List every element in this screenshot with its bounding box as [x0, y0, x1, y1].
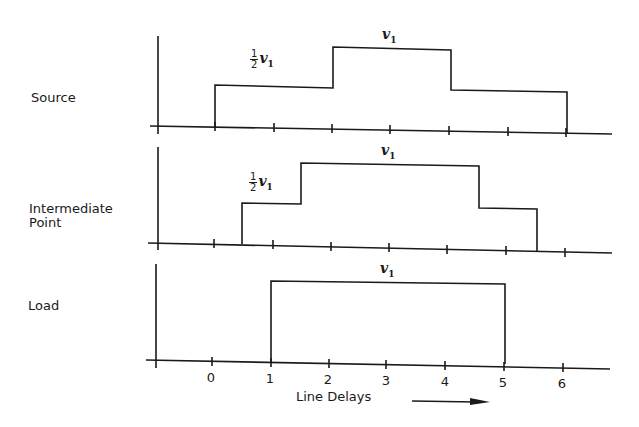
tick-label-3: 3: [376, 373, 396, 388]
intermediate-x-axis: [148, 243, 612, 253]
intermediate-waveform: [242, 163, 537, 251]
x-axis-label: Line Delays: [296, 389, 371, 404]
source-half-v1-label: 12 v1: [250, 49, 274, 70]
row-label-point: Point: [29, 216, 61, 230]
tick-label-0: 0: [201, 370, 221, 385]
tick-label-1: 1: [260, 371, 280, 386]
load-v1-label: v1: [380, 260, 394, 279]
source-ticks: [215, 122, 566, 137]
row-label-source: Source: [31, 91, 76, 105]
tick-label-6: 6: [552, 376, 572, 391]
tick-label-5: 5: [493, 375, 513, 390]
load-waveform: [271, 281, 505, 364]
intermediate-ticks: [214, 239, 565, 257]
line-delays-arrow-shaft: [412, 401, 476, 402]
source-v1-label: v1: [382, 26, 396, 45]
row-label-intermediate: Intermediate: [29, 202, 113, 216]
tick-label-2: 2: [318, 372, 338, 387]
source-x-axis: [150, 126, 612, 134]
right-arrow-icon: [470, 398, 490, 405]
tick-label-4: 4: [435, 374, 455, 389]
intermediate-v1-label: v1: [381, 142, 395, 161]
load-x-axis: [146, 360, 610, 369]
row-label-load: Load: [28, 299, 59, 313]
intermediate-half-v1-label: 12 v1: [249, 172, 273, 193]
